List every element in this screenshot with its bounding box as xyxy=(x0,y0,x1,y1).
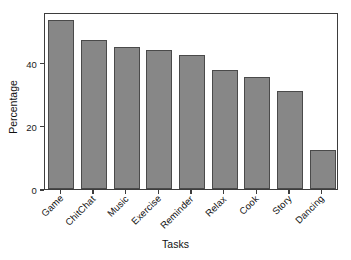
x-tick-label-story: Story xyxy=(270,193,294,217)
x-tick-mark xyxy=(60,190,61,194)
x-tick-label-reminder: Reminder xyxy=(158,193,195,230)
bar-game xyxy=(48,20,74,189)
bar-relax xyxy=(212,70,238,189)
x-tick-mark xyxy=(256,190,257,194)
x-tick-label-music: Music xyxy=(105,193,131,219)
x-tick-mark xyxy=(92,190,93,194)
x-tick-mark xyxy=(125,190,126,194)
bar-reminder xyxy=(179,55,205,189)
x-tick-label-chitchat: ChitChat xyxy=(63,193,97,227)
bar-cook xyxy=(244,77,270,189)
x-axis-label: Tasks xyxy=(0,238,351,250)
bar-chart-figure: Percentage 02040 GameChitChatMusicExerci… xyxy=(0,0,351,260)
y-tick-label: 40 xyxy=(26,58,37,69)
bar-chitchat xyxy=(81,40,107,189)
x-tick-label-cook: Cook xyxy=(237,193,261,217)
bar-dancing xyxy=(310,150,336,190)
bar-story xyxy=(277,91,303,189)
x-tick-label-relax: Relax xyxy=(203,193,228,218)
y-axis-label: Percentage xyxy=(7,62,19,152)
x-tick-mark xyxy=(223,190,224,194)
x-tick-mark xyxy=(321,190,322,194)
plot-area xyxy=(44,13,338,190)
x-tick-mark xyxy=(190,190,191,194)
y-tick-label: 20 xyxy=(26,121,37,132)
x-tick-mark xyxy=(288,190,289,194)
x-tick-label-dancing: Dancing xyxy=(293,193,326,226)
bar-music xyxy=(114,47,140,189)
x-tick-label-game: Game xyxy=(39,193,65,219)
x-tick-mark xyxy=(158,190,159,194)
bars-layer xyxy=(45,14,337,189)
bar-exercise xyxy=(146,50,172,189)
